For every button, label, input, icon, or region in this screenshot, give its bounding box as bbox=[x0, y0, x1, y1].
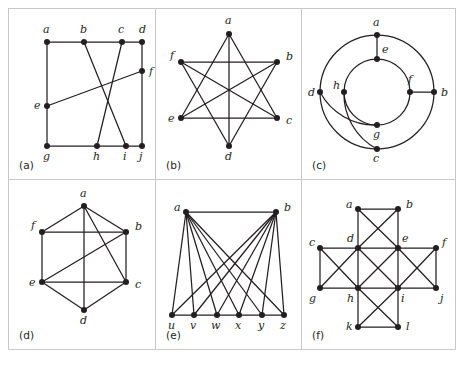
graph-d: abcdef bbox=[9, 180, 155, 349]
vertex-i[interactable] bbox=[395, 285, 401, 291]
vertex-f[interactable] bbox=[407, 89, 413, 95]
vertex-e[interactable] bbox=[44, 103, 50, 109]
vertex-label-d: d bbox=[80, 314, 87, 327]
edge-c-d bbox=[84, 282, 126, 310]
vertex-d[interactable] bbox=[226, 143, 232, 149]
edge-b-i bbox=[84, 42, 126, 146]
vertex-h[interactable] bbox=[341, 89, 347, 95]
vertex-b[interactable] bbox=[274, 59, 280, 65]
vertex-f[interactable] bbox=[433, 245, 439, 251]
vertex-a[interactable] bbox=[374, 32, 380, 38]
vertex-a[interactable] bbox=[81, 203, 87, 209]
vertex-label-g: g bbox=[373, 128, 380, 141]
vertex-h[interactable] bbox=[94, 143, 100, 149]
panel-b-caption: (b) bbox=[166, 159, 181, 171]
vertex-d[interactable] bbox=[317, 89, 323, 95]
edge-a-b bbox=[84, 206, 126, 232]
vertex-k[interactable] bbox=[355, 324, 361, 330]
vertex-label-c: c bbox=[135, 278, 141, 291]
vertex-b[interactable] bbox=[273, 209, 279, 215]
vertex-label-l: l bbox=[406, 320, 410, 333]
vertex-b[interactable] bbox=[81, 39, 87, 45]
vertex-label-d: d bbox=[308, 86, 315, 99]
graph-f: abcdefghijkl bbox=[302, 180, 455, 349]
vertex-f[interactable] bbox=[178, 59, 184, 65]
edge-b-w bbox=[217, 212, 276, 315]
vertex-e[interactable] bbox=[395, 245, 401, 251]
vertex-label-b: b bbox=[286, 50, 293, 63]
vertex-c[interactable] bbox=[317, 245, 323, 251]
vertex-label-a: a bbox=[373, 16, 380, 29]
vertex-b[interactable] bbox=[431, 89, 437, 95]
vertex-x[interactable] bbox=[236, 312, 242, 318]
vertex-b[interactable] bbox=[395, 206, 401, 212]
vertex-j[interactable] bbox=[139, 143, 145, 149]
vertex-label-b: b bbox=[441, 86, 448, 99]
vertex-y[interactable] bbox=[259, 312, 265, 318]
vertex-c[interactable] bbox=[119, 39, 125, 45]
edge-b-z bbox=[276, 212, 284, 315]
vertex-label-b: b bbox=[135, 220, 142, 233]
graph-b: abcdef bbox=[156, 9, 301, 179]
edge-d-e bbox=[42, 282, 84, 310]
vertex-label-k: k bbox=[346, 320, 353, 333]
vertex-e[interactable] bbox=[39, 279, 45, 285]
panel-a-caption: (a) bbox=[19, 159, 34, 171]
panel-c-caption: (c) bbox=[312, 159, 326, 171]
vertex-a[interactable] bbox=[355, 206, 361, 212]
vertex-label-f: f bbox=[441, 236, 448, 249]
vertex-label-e: e bbox=[382, 43, 389, 56]
vertex-a[interactable] bbox=[44, 39, 50, 45]
vertex-d[interactable] bbox=[355, 245, 361, 251]
vertex-label-w: w bbox=[211, 319, 221, 332]
panel-d-caption: (d) bbox=[19, 329, 34, 341]
vertex-label-e: e bbox=[34, 99, 41, 112]
vertex-b[interactable] bbox=[123, 229, 129, 235]
edge-d-f bbox=[181, 62, 229, 146]
vertex-label-e: e bbox=[168, 112, 175, 125]
vertex-u[interactable] bbox=[169, 312, 175, 318]
vertex-label-j: j bbox=[437, 292, 444, 305]
vertex-d[interactable] bbox=[81, 307, 87, 313]
vertex-label-g: g bbox=[43, 150, 50, 163]
panel-f: abcdefghijkl (f) bbox=[302, 180, 455, 349]
vertex-label-i: i bbox=[123, 150, 127, 163]
vertex-c[interactable] bbox=[274, 115, 280, 121]
vertex-label-f: f bbox=[148, 65, 155, 78]
vertex-a[interactable] bbox=[183, 209, 189, 215]
vertex-z[interactable] bbox=[281, 312, 287, 318]
vertex-e[interactable] bbox=[374, 56, 380, 62]
vertex-label-d: d bbox=[225, 150, 232, 163]
vertex-label-j: j bbox=[136, 150, 143, 163]
vertex-g[interactable] bbox=[317, 285, 323, 291]
vertex-f[interactable] bbox=[139, 68, 145, 74]
edge-b-x bbox=[239, 212, 276, 315]
panel-e: abuvwxyz (e) bbox=[156, 180, 301, 349]
vertex-label-a: a bbox=[225, 14, 232, 27]
panel-d: abcdef (d) bbox=[9, 180, 155, 349]
vertex-f[interactable] bbox=[39, 229, 45, 235]
vertex-label-z: z bbox=[279, 319, 286, 332]
vertex-label-e: e bbox=[29, 276, 36, 289]
graph-a: abcdefghij bbox=[9, 9, 155, 179]
vertex-l[interactable] bbox=[395, 324, 401, 330]
edge-c-h bbox=[97, 42, 122, 146]
vertex-j[interactable] bbox=[433, 285, 439, 291]
vertex-label-a: a bbox=[174, 201, 181, 214]
panel-e-caption: (e) bbox=[166, 329, 181, 341]
vertex-w[interactable] bbox=[214, 312, 220, 318]
vertex-d[interactable] bbox=[139, 39, 145, 45]
vertex-g[interactable] bbox=[44, 143, 50, 149]
panel-a: abcdefghij (a) bbox=[9, 9, 155, 179]
vertex-v[interactable] bbox=[191, 312, 197, 318]
vertex-i[interactable] bbox=[123, 143, 129, 149]
panel-c: abcdefgh (c) bbox=[302, 9, 455, 179]
vertex-h[interactable] bbox=[355, 285, 361, 291]
vertex-label-d: d bbox=[139, 23, 146, 36]
vertex-a[interactable] bbox=[226, 31, 232, 37]
vertex-label-a: a bbox=[43, 23, 50, 36]
vertex-e[interactable] bbox=[178, 115, 184, 121]
vertex-label-a: a bbox=[346, 198, 353, 211]
vertex-label-h: h bbox=[347, 292, 354, 305]
vertex-c[interactable] bbox=[123, 279, 129, 285]
